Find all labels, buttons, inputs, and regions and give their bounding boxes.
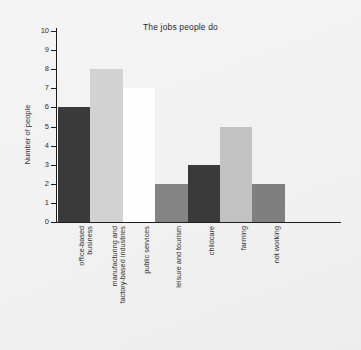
y-tick [51,31,56,32]
bar [123,88,155,222]
bar [58,107,90,222]
y-tick-label: 1 [33,199,49,207]
y-tick [51,88,56,89]
page-background [0,0,361,350]
y-tick [51,203,56,204]
y-tick-label: 9 [33,46,49,54]
x-category-label: office-basedbusiness [78,226,94,266]
x-category-label: manufacturing andfactory-based industrie… [111,226,127,303]
y-tick [51,222,56,223]
y-tick [51,146,56,147]
y-tick-label: 3 [33,161,49,169]
bar [90,69,122,222]
bar [188,165,220,222]
x-axis-line [56,222,341,223]
y-tick [51,165,56,166]
y-tick [51,69,56,70]
y-tick [51,127,56,128]
x-category-label: childcare [208,226,216,255]
y-tick [51,107,56,108]
y-axis-title: Number of people [23,90,32,180]
y-tick-label: 6 [33,103,49,111]
bar [220,127,252,223]
bar [155,184,187,222]
x-category-label: leisure and tourism [175,226,183,288]
y-tick [51,50,56,51]
y-tick-label: 10 [33,27,49,35]
y-tick-label: 8 [33,65,49,73]
y-tick-label: 0 [33,218,49,226]
y-tick [51,184,56,185]
bar [252,184,284,222]
y-tick-label: 2 [33,180,49,188]
bar-chart: The jobs people do Number of people 0123… [0,0,361,350]
y-tick-label: 7 [33,84,49,92]
y-tick-label: 4 [33,142,49,150]
x-category-label: not working [273,226,281,263]
x-category-label: public services [143,226,151,274]
x-category-label: farming [240,226,248,250]
y-axis-line [56,28,57,223]
y-tick-label: 5 [33,123,49,131]
